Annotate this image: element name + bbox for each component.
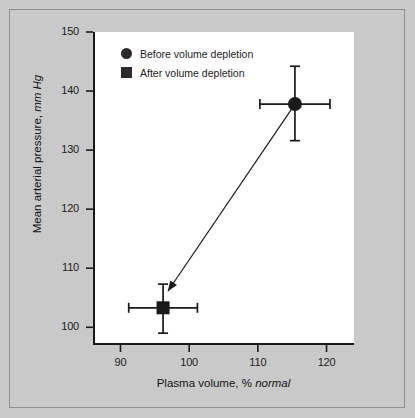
x-axis-tick-marks <box>120 345 326 352</box>
y-axis-tick-label: 140 <box>39 84 79 96</box>
data-point-before <box>288 97 302 111</box>
x-axis-tick-label: 90 <box>100 356 140 368</box>
y-axis-tick-label: 130 <box>39 143 79 155</box>
y-axis-tick-marks <box>86 32 93 327</box>
x-axis-tick-label: 110 <box>238 356 278 368</box>
y-axis-tick-label: 100 <box>39 320 79 332</box>
x-axis-tick-label: 120 <box>307 356 347 368</box>
legend-item: After volume depletion <box>121 63 296 82</box>
y-axis-tick-label: 110 <box>39 261 79 273</box>
transition-arrow <box>168 104 295 291</box>
y-axis-tick-label: 150 <box>39 25 79 37</box>
legend: Before volume depletion After volume dep… <box>121 44 296 82</box>
x-axis-tick-label: 100 <box>169 356 209 368</box>
data-point-after <box>157 301 170 314</box>
legend-item: Before volume depletion <box>121 44 296 63</box>
y-axis-title: Mean arterial pressure, mm Hg <box>31 54 43 254</box>
legend-item-label: After volume depletion <box>140 67 244 79</box>
circle-marker-icon <box>121 48 132 59</box>
y-axis-tick-label: 120 <box>39 202 79 214</box>
x-axis-title: Plasma volume, % normal <box>93 377 354 389</box>
legend-item-label: Before volume depletion <box>140 48 253 60</box>
square-marker-icon <box>121 67 132 78</box>
figure: 150140130120110100 90100110120 Mean arte… <box>0 0 415 418</box>
